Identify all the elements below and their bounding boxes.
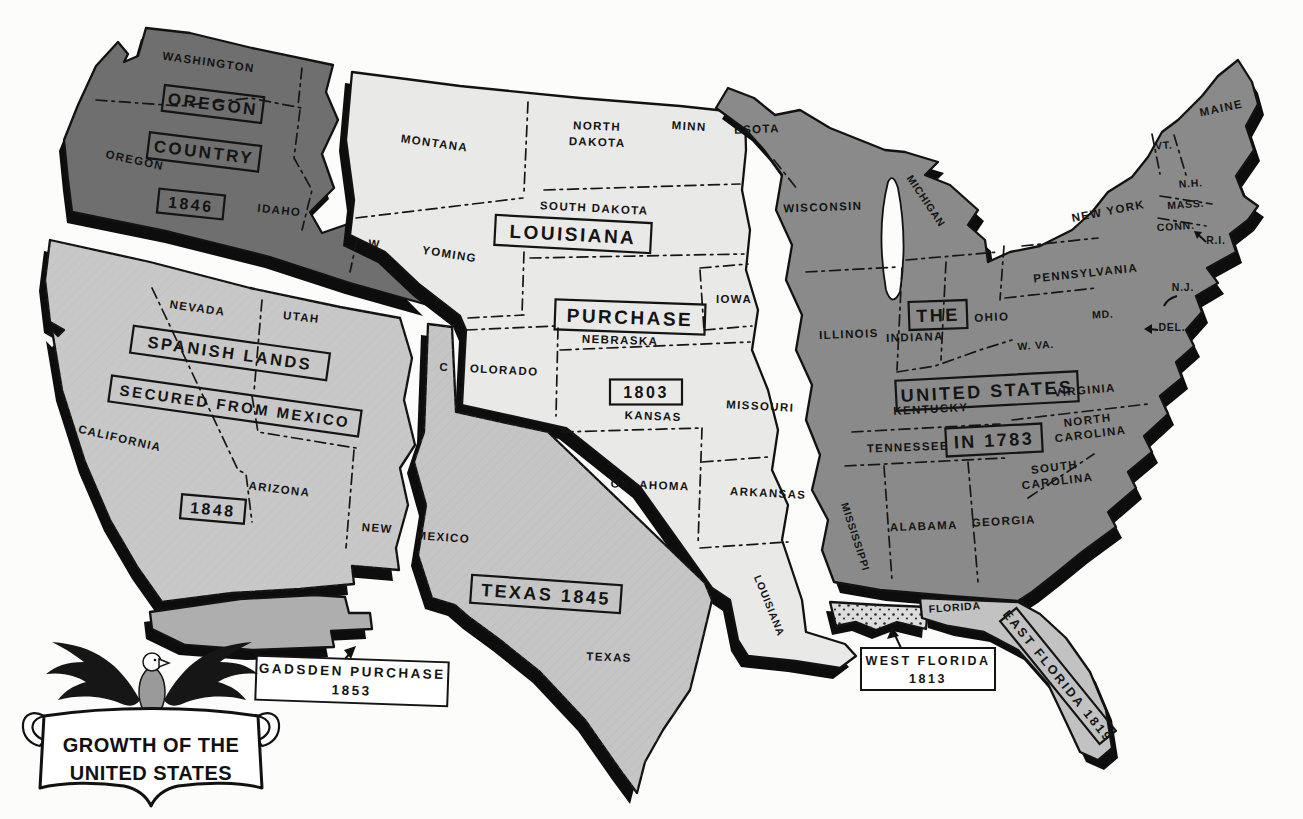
lake-michigan bbox=[881, 178, 903, 299]
label-north-dakota-2: DAKOTA bbox=[569, 135, 626, 149]
label-illinois: ILLINOIS bbox=[819, 327, 879, 341]
label-north-dakota-1: NORTH bbox=[573, 119, 621, 133]
svg-text:1853: 1853 bbox=[331, 682, 372, 698]
east-florida-box-label: EAST FLORIDA 1819 bbox=[998, 605, 1119, 747]
label-colorado-c: C bbox=[439, 361, 449, 373]
label-indiana: INDIANA bbox=[886, 330, 944, 344]
svg-text:WEST FLORIDA: WEST FLORIDA bbox=[865, 654, 990, 668]
map-title-line-1: GROWTH OF THE bbox=[63, 734, 239, 756]
label-wyoming-w: W bbox=[368, 237, 381, 250]
growth-map-svg: WASHINGTON OREGON IDAHO W NEVADA UTAH CA… bbox=[0, 0, 1303, 819]
label-new-mexico-new: NEW bbox=[361, 521, 393, 535]
label-delaware: DEL. bbox=[1158, 321, 1185, 333]
label-west-virginia: W. VA. bbox=[1017, 338, 1054, 353]
label-esota: ESOTA bbox=[734, 122, 780, 136]
svg-text:EAST FLORIDA 1819: EAST FLORIDA 1819 bbox=[1000, 608, 1115, 746]
svg-text:THE: THE bbox=[916, 305, 960, 327]
svg-text:1813: 1813 bbox=[909, 672, 947, 686]
svg-text:1803: 1803 bbox=[623, 384, 669, 401]
label-iowa: IOWA bbox=[716, 293, 752, 305]
label-new-hampshire: N.H. bbox=[1178, 176, 1203, 190]
territory-united-states-1783 bbox=[716, 60, 1264, 612]
label-texas-state: TEXAS bbox=[586, 650, 632, 664]
label-vermont: VT. bbox=[1155, 138, 1173, 151]
label-new-jersey: N.J. bbox=[1172, 281, 1194, 293]
label-rhode-island: R.I. bbox=[1206, 234, 1226, 246]
territory-west-florida bbox=[826, 602, 928, 639]
svg-text:PURCHASE: PURCHASE bbox=[566, 305, 693, 330]
map-page: WASHINGTON OREGON IDAHO W NEVADA UTAH CA… bbox=[0, 0, 1303, 819]
map-title-line-2: UNITED STATES bbox=[70, 762, 232, 784]
label-ohio: OHIO bbox=[974, 310, 1010, 324]
label-kansas: KANSAS bbox=[624, 409, 681, 423]
label-maryland: MD. bbox=[1092, 307, 1114, 320]
title-emblem: GROWTH OF THE UNITED STATES bbox=[23, 642, 279, 806]
label-oklahoma: OKLAHOMA bbox=[610, 478, 689, 493]
svg-text:IN 1783: IN 1783 bbox=[953, 428, 1034, 452]
label-alabama: ALABAMA bbox=[890, 519, 958, 533]
label-minn: MINN bbox=[671, 119, 707, 133]
title-banner: GROWTH OF THE UNITED STATES bbox=[23, 709, 279, 807]
